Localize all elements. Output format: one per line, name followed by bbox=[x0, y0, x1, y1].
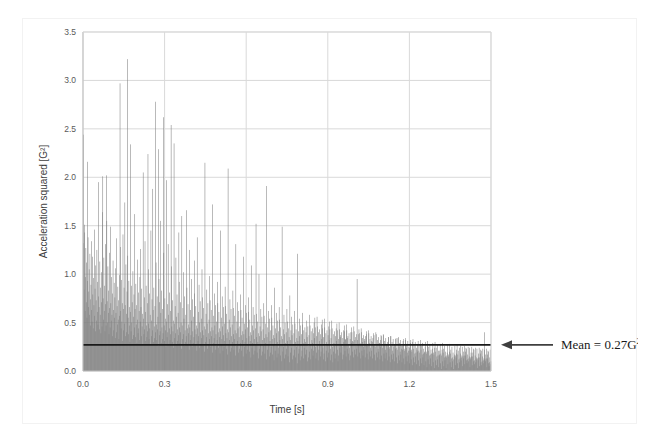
y-tick-label: 1.0 bbox=[64, 269, 76, 279]
mean-annotation-label: Mean = 0.27G2 bbox=[561, 336, 638, 352]
x-tick-label: 0.3 bbox=[159, 379, 171, 389]
y-tick-label: 3.5 bbox=[64, 27, 76, 37]
acceleration-time-chart: 0.00.51.01.52.02.53.03.50.00.30.60.91.21… bbox=[23, 19, 638, 425]
x-tick-label: 1.5 bbox=[485, 379, 497, 389]
y-tick-label: 1.5 bbox=[64, 221, 76, 231]
bar bbox=[477, 349, 478, 371]
bar bbox=[448, 356, 449, 371]
x-tick-label: 0.9 bbox=[322, 379, 334, 389]
bar bbox=[453, 353, 454, 371]
x-tick-label: 0.6 bbox=[240, 379, 252, 389]
left-arrow-icon bbox=[501, 340, 512, 349]
y-tick-label: 2.5 bbox=[64, 124, 76, 134]
y-tick-label: 3.0 bbox=[64, 75, 76, 85]
bar bbox=[441, 356, 442, 372]
bar bbox=[458, 351, 459, 371]
y-tick-label: 0.0 bbox=[64, 366, 76, 376]
y-tick-label: 2.0 bbox=[64, 172, 76, 182]
x-tick-label: 0.0 bbox=[77, 379, 89, 389]
x-tick-label: 1.2 bbox=[403, 379, 415, 389]
mean-annotation-superscript: 2 bbox=[637, 336, 638, 346]
y-tick-label: 0.5 bbox=[64, 318, 76, 328]
chart-figure: 0.00.51.01.52.02.53.03.50.00.30.60.91.21… bbox=[22, 18, 637, 424]
y-axis-title: Acceleration squared [G²] bbox=[38, 145, 49, 259]
x-axis-title: Time [s] bbox=[269, 404, 304, 415]
